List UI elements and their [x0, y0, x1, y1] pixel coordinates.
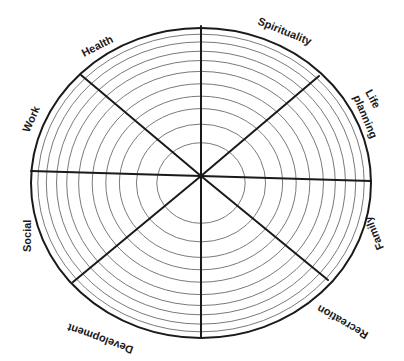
label-development: Development	[65, 321, 134, 356]
label-spirituality: Spirituality	[256, 15, 314, 48]
wheel-of-life-diagram: Health Spirituality Life planning Family…	[0, 0, 404, 361]
label-work: Work	[20, 103, 42, 134]
label-social: Social	[21, 220, 33, 252]
label-recreation: Recreation	[315, 303, 370, 342]
label-health: Health	[79, 33, 115, 59]
label-family: Family	[361, 214, 386, 252]
